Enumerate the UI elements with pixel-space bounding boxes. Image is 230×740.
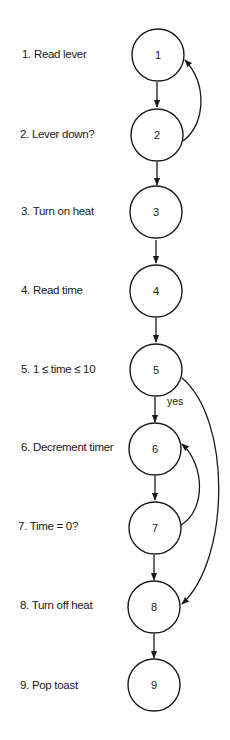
step-label-4: 4. Read time (21, 284, 83, 296)
edge-label-yes: yes (167, 395, 183, 407)
step-label-7: 7. Time = 0? (18, 520, 78, 532)
step-label-9: 9. Pop toast (20, 679, 79, 691)
node-7: 7 (129, 502, 181, 554)
node-number-3: 3 (153, 206, 159, 218)
edge-2-1-loop (183, 60, 201, 141)
control-flow-diagram: 1. Read lever 2. Lever down? 3. Turn on … (0, 0, 230, 740)
step-label-6: 6. Decrement timer (21, 441, 114, 453)
node-8: 8 (128, 581, 180, 633)
node-number-9: 9 (151, 679, 157, 691)
edge-5-8-skip (182, 378, 219, 604)
step-label-3: 3. Turn on heat (21, 205, 95, 217)
node-number-5: 5 (153, 364, 159, 376)
step-label-1: 1. Read lever (22, 48, 87, 60)
node-9: 9 (128, 659, 180, 711)
node-4: 4 (130, 265, 182, 317)
node-number-7: 7 (152, 522, 158, 534)
step-label-5: 5. 1 ≤ time ≤ 10 (21, 363, 95, 375)
node-2: 2 (131, 109, 183, 161)
node-number-8: 8 (151, 601, 157, 613)
node-number-4: 4 (153, 285, 159, 297)
node-number-1: 1 (155, 49, 161, 61)
node-number-6: 6 (152, 443, 158, 455)
node-5: 5 (130, 344, 182, 396)
step-label-8: 8. Turn off heat (20, 599, 93, 611)
node-6: 6 (129, 423, 181, 475)
edge-7-6-loop (181, 444, 200, 525)
step-label-2: 2. Lever down? (20, 128, 94, 140)
node-3: 3 (130, 186, 182, 238)
node-number-2: 2 (154, 129, 160, 141)
node-1: 1 (132, 29, 184, 81)
